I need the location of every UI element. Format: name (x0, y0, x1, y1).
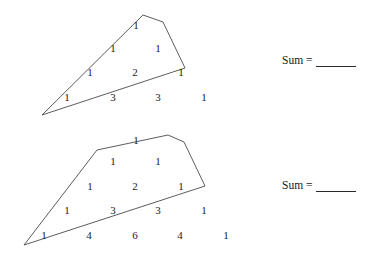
pascal-cell: 4 (86, 230, 92, 241)
pascal-cell: 1 (201, 92, 207, 103)
sum-label-1: Sum = (282, 55, 312, 67)
pascal-cell: 1 (178, 181, 184, 192)
pascal-cell: 1 (64, 205, 70, 216)
pascal-cell: 1 (41, 230, 47, 241)
pascal-cell: 2 (132, 67, 138, 78)
pascal-cell: 1 (155, 43, 161, 54)
sum-line-2: Sum = (282, 180, 356, 192)
pascal-outlines-svg (0, 0, 380, 258)
pascal-cell: 4 (177, 230, 183, 241)
pascal-cell: 6 (132, 230, 138, 241)
pascal-cell: 1 (110, 43, 116, 54)
pascal-cell: 1 (223, 230, 229, 241)
pascal-cell: 3 (155, 205, 161, 216)
pascal-cell: 1 (64, 92, 70, 103)
sum-line-1: Sum = (282, 55, 356, 67)
pascal-cell: 1 (133, 135, 139, 146)
worksheet-page: 1111211331111121133114641 Sum = Sum = (0, 0, 380, 258)
pascal-cell: 1 (201, 205, 207, 216)
pascal-cell: 3 (110, 205, 116, 216)
sum-label-2: Sum = (282, 180, 312, 192)
pascal-cell: 1 (178, 67, 184, 78)
sum-answer-blank-2[interactable] (316, 181, 356, 192)
pascal-cell: 1 (87, 67, 93, 78)
pascal-cell: 2 (132, 181, 138, 192)
pascal-cell: 1 (110, 156, 116, 167)
pascal-cell: 1 (87, 181, 93, 192)
pascal-cell: 3 (155, 92, 161, 103)
pascal-cell: 1 (155, 156, 161, 167)
pascal-cell: 3 (110, 92, 116, 103)
pascal-cell: 1 (133, 20, 139, 31)
sum-answer-blank-1[interactable] (316, 56, 356, 67)
